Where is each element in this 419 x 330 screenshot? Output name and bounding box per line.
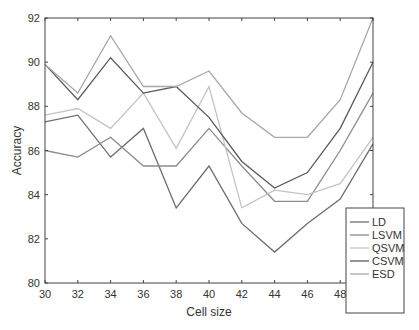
- legend: LDLSVMQSVMCSVMESD: [346, 208, 404, 313]
- x-tick-label: 38: [170, 288, 182, 300]
- y-tick-label: 88: [28, 100, 40, 112]
- y-tick-label: 82: [28, 233, 40, 245]
- legend-label: LSVM: [372, 229, 402, 241]
- x-tick-label: 44: [268, 288, 280, 300]
- legend-label: ESD: [372, 268, 395, 280]
- series-line-csvm: [45, 58, 373, 188]
- series-line-ld: [45, 115, 373, 252]
- y-tick-label: 80: [28, 277, 40, 289]
- x-tick-label: 42: [236, 288, 248, 300]
- x-axis-label: Cell size: [186, 305, 232, 319]
- y-axis-label: Accuracy: [10, 126, 24, 175]
- x-tick-label: 40: [203, 288, 215, 300]
- series-line-lsvm: [45, 93, 373, 201]
- x-tick-label: 46: [301, 288, 313, 300]
- x-axis-ticks: 3032343638404244464850: [39, 18, 379, 300]
- x-tick-label: 36: [137, 288, 149, 300]
- legend-label: QSVM: [372, 242, 404, 254]
- y-axis-ticks: 80828486889092: [28, 12, 373, 289]
- line-chart: 3032343638404244464850 80828486889092 Ce…: [0, 0, 419, 330]
- x-tick-label: 48: [334, 288, 346, 300]
- plot-lines: [45, 18, 373, 252]
- y-tick-label: 84: [28, 189, 40, 201]
- x-tick-label: 30: [39, 288, 51, 300]
- legend-label: LD: [372, 216, 386, 228]
- y-tick-label: 86: [28, 145, 40, 157]
- x-tick-label: 32: [72, 288, 84, 300]
- y-tick-label: 92: [28, 12, 40, 24]
- y-tick-label: 90: [28, 56, 40, 68]
- x-tick-label: 34: [104, 288, 116, 300]
- legend-label: CSVM: [372, 255, 404, 267]
